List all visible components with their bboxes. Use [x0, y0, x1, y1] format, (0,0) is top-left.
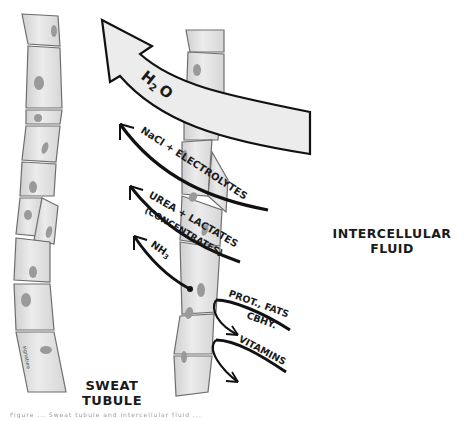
svg-text:VITAMINS: VITAMINS — [237, 333, 288, 367]
prot-fats-arrow: PROT., FATS CBHY. — [214, 288, 291, 335]
intercellular-fluid-label: INTERCELLULAR FLUID — [312, 226, 472, 256]
sweat-tubule-label-line2: TUBULE — [72, 393, 152, 408]
figure-caption: Figure ... Sweat tubule and intercellula… — [10, 411, 202, 419]
intercellular-label-line1: INTERCELLULAR — [312, 226, 472, 241]
intercellular-label-line2: FLUID — [312, 241, 472, 256]
vitamins-arrow: VITAMINS — [213, 333, 288, 382]
sweat-tubule-diagram: signature H2O NaCl + ELECTROLYTES — [0, 0, 472, 421]
sweat-tubule-label: SWEAT TUBULE — [72, 378, 152, 408]
sweat-tubule-label-line1: SWEAT — [72, 378, 152, 393]
left-tubule-cells — [14, 14, 66, 392]
